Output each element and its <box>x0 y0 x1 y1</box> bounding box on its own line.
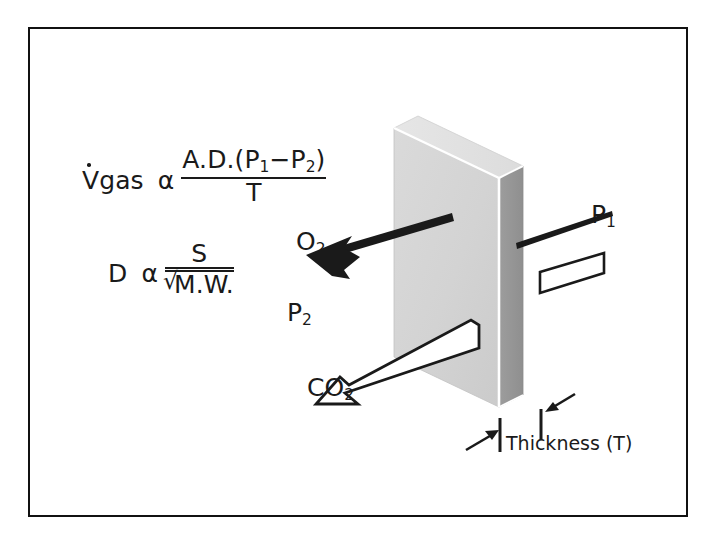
thickness-arrow-right <box>545 394 575 412</box>
graham-fraction: S M.W. <box>165 241 234 297</box>
label-p1-subscript: 1 <box>606 213 616 231</box>
graham-numerator: S <box>165 241 234 269</box>
label-p1-text: P <box>591 200 606 229</box>
label-oxygen: O2 <box>296 229 326 258</box>
label-thickness: Thickness (T) <box>506 434 632 453</box>
fick-num-part2: −P <box>269 145 305 174</box>
label-p2-text: P <box>287 298 302 327</box>
label-carbon-dioxide: CO2 <box>307 375 354 404</box>
label-p2-subscript: 2 <box>302 311 312 329</box>
label-oxygen-subscript: 2 <box>316 240 326 258</box>
label-co2-text: CO <box>307 373 344 402</box>
fick-fraction: A.D.(P1−P2) T <box>181 147 326 205</box>
co2-arrow-tail-segment <box>540 253 604 293</box>
thickness-arrow-left <box>466 430 499 450</box>
fick-denominator: T <box>181 179 326 205</box>
proportional-symbol-2: α <box>135 259 164 288</box>
equation-fick: Vgas α A.D.(P1−P2) T <box>82 147 327 205</box>
fick-num-part3: ) <box>316 145 326 174</box>
figure-root: Vgas α A.D.(P1−P2) T D α S M.W. O2 CO2 P… <box>0 0 709 541</box>
membrane-side-face <box>499 166 523 407</box>
diagram-graphics-layer <box>0 0 709 541</box>
graham-den-text: M.W. <box>174 270 234 299</box>
fick-num-sub2: 2 <box>306 158 316 176</box>
fick-numerator: A.D.(P1−P2) <box>181 147 326 179</box>
label-co2-subscript: 2 <box>344 386 354 404</box>
v-dot-symbol: V <box>82 168 99 193</box>
graham-lhs: D <box>108 259 127 288</box>
graham-denominator: M.W. <box>165 269 234 297</box>
label-oxygen-text: O <box>296 227 316 256</box>
square-root-symbol: M.W. <box>165 270 234 297</box>
fick-num-part1: A.D.(P <box>182 145 259 174</box>
proportional-symbol-1: α <box>152 166 181 195</box>
label-pressure-low: P2 <box>287 300 312 329</box>
fick-num-sub1: 1 <box>260 158 270 176</box>
label-pressure-high: P1 <box>591 202 616 231</box>
equation-graham: D α S M.W. <box>108 241 235 297</box>
v-subscript-gas: gas <box>99 166 144 195</box>
